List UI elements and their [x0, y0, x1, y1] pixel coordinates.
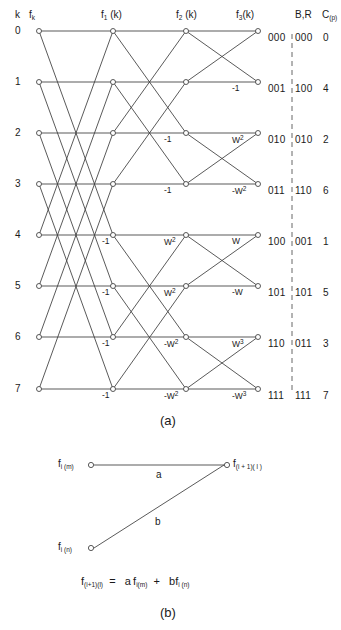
value-C-row0: 0 [323, 33, 329, 43]
row-index-7: 7 [15, 384, 21, 394]
flow-node-c2-r2 [184, 131, 189, 136]
value-C-row4: 1 [323, 237, 329, 247]
flow-node-c2-r7 [184, 387, 189, 392]
flow-node-c0-r4 [37, 233, 42, 238]
value-C-row7: 7 [323, 391, 329, 401]
row-index-4: 4 [15, 230, 21, 240]
bits-B-row0: 000 [268, 33, 286, 43]
flow-node-c0-r5 [37, 284, 42, 289]
flow-node-c3-r4 [256, 233, 261, 238]
bits-B-row5: 101 [268, 288, 286, 298]
header-k: k [15, 10, 20, 20]
flow-node-c3-r3 [256, 182, 261, 187]
column-header-1: f1 (k) [101, 10, 122, 22]
bits-R-row1: 100 [295, 84, 313, 94]
stage3-weight-row2: W2 [232, 135, 244, 145]
stage2-weight-row5: W2 [164, 288, 176, 298]
node-fi1-l [224, 462, 229, 467]
bits-B-row6: 110 [268, 339, 285, 349]
stage1-weight-row5: -1 [102, 288, 110, 297]
flow-node-c3-r7 [256, 387, 261, 392]
row-index-3: 3 [15, 179, 21, 189]
panel-b-equation: f(i+1)(l) = a fi(m) + bfi (n) [81, 576, 189, 589]
value-C-row6: 3 [323, 339, 329, 349]
flow-node-c2-r0 [184, 29, 189, 34]
stage3-weight-row7: -W3 [232, 391, 246, 401]
flow-node-c3-r0 [256, 29, 261, 34]
fft-signal-flow-figure [0, 0, 341, 630]
flow-node-c1-r5 [111, 284, 116, 289]
node-fi-m [88, 462, 93, 467]
value-C-row1: 4 [323, 84, 329, 94]
value-C-row3: 6 [323, 186, 329, 196]
panel-a-caption: (a) [160, 414, 176, 427]
flow-node-c2-r4 [184, 233, 189, 238]
flow-node-c2-r6 [184, 335, 189, 340]
stage3-weight-row5: -W [232, 288, 243, 297]
flow-node-c1-r6 [111, 335, 116, 340]
node-fi-n [88, 545, 93, 550]
bits-B-row3: 011 [268, 186, 285, 196]
header-br: B,R [295, 10, 312, 20]
flow-node-c0-r7 [37, 387, 42, 392]
stage2-weight-row4: W2 [164, 237, 176, 247]
stage2-weight-row7: -W2 [164, 391, 178, 401]
flow-node-c2-r3 [184, 182, 189, 187]
bits-R-row2: 010 [295, 135, 313, 145]
flow-node-c3-r2 [256, 131, 261, 136]
panel-b-label-fi1-l: f(i + 1)( l ) [233, 459, 262, 471]
row-index-2: 2 [15, 128, 21, 138]
bits-R-row6: 011 [295, 339, 312, 349]
row-index-0: 0 [15, 26, 21, 36]
bits-B-row7: 111 [268, 391, 284, 401]
flow-node-c1-r1 [111, 80, 116, 85]
panel-b-caption: (b) [160, 606, 176, 619]
stage1-weight-row4: -1 [102, 237, 110, 246]
row-index-5: 5 [15, 281, 21, 291]
stage1-weight-row7: -1 [102, 391, 110, 400]
stage2-weight-row3: -1 [164, 186, 172, 195]
stage1-weight-row6: -1 [102, 339, 110, 348]
bits-B-row2: 010 [268, 135, 286, 145]
bits-R-row5: 101 [295, 288, 313, 298]
row-index-1: 1 [15, 77, 21, 87]
stage3-weight-row6: W3 [232, 339, 244, 349]
flow-node-c1-r3 [111, 182, 116, 187]
stage3-weight-row4: W [232, 237, 240, 246]
flow-node-c0-r0 [37, 29, 42, 34]
bits-R-row4: 001 [295, 237, 313, 247]
flow-node-c1-r4 [111, 233, 116, 238]
flow-node-c0-r2 [37, 131, 42, 136]
flow-node-c2-r5 [184, 284, 189, 289]
stage3-weight-row3: -W2 [232, 186, 246, 196]
flow-node-c3-r1 [256, 80, 261, 85]
column-header-3: f3(k) [236, 10, 254, 22]
bits-B-row4: 100 [268, 237, 286, 247]
flow-node-c1-r0 [111, 29, 116, 34]
row-index-6: 6 [15, 332, 21, 342]
panel-b-edge-b-label: b [155, 517, 161, 527]
flow-node-c2-r1 [184, 80, 189, 85]
bits-R-row7: 111 [295, 391, 311, 401]
flow-node-c3-r6 [256, 335, 261, 340]
flow-node-c0-r1 [37, 80, 42, 85]
column-header-0: fk [29, 10, 35, 22]
stage3-weight-row1: -1 [232, 84, 240, 93]
flow-node-c0-r3 [37, 182, 42, 187]
stage2-weight-row2: -1 [164, 135, 172, 144]
flow-node-c1-r2 [111, 131, 116, 136]
panel-b-label-fi-m: fi (m) [58, 459, 74, 471]
panel-b-edge-a-label: a [156, 470, 162, 480]
bits-R-row0: 000 [295, 33, 313, 43]
bits-R-row3: 110 [295, 186, 312, 196]
stage2-weight-row6: -W2 [164, 339, 178, 349]
value-C-row2: 2 [323, 135, 329, 145]
flow-node-c0-r6 [37, 335, 42, 340]
header-cp: C(p) [322, 10, 337, 22]
flow-node-c3-r5 [256, 284, 261, 289]
bits-B-row1: 001 [268, 84, 286, 94]
panel-b-label-fi-n: fi (n) [58, 542, 72, 554]
butterfly-edges [39, 31, 258, 389]
column-header-2: f2 (k) [176, 10, 197, 22]
flow-node-c1-r7 [111, 387, 116, 392]
